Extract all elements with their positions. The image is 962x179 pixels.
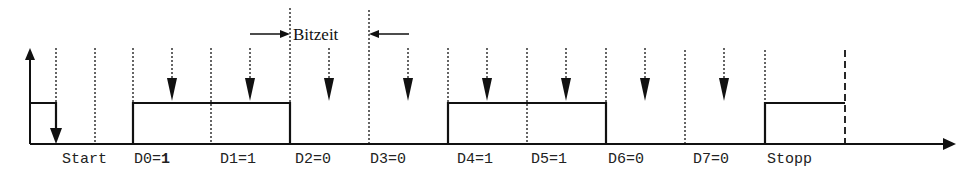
label-start: Start — [62, 151, 107, 168]
sample-arrow-icon — [482, 78, 492, 101]
time-axis-arrow-icon — [943, 138, 956, 150]
sample-arrow-icon — [719, 78, 729, 101]
sample-arrow-icon — [640, 78, 650, 101]
bit-labels: Start D0=1 D1=1 D2=0 D3=0 D4=1 D5=1 D6=0… — [62, 151, 812, 168]
label-d0: D0=1 — [134, 151, 170, 168]
label-d7: D7=0 — [693, 151, 729, 168]
sample-arrow-icon — [561, 78, 571, 101]
label-d2: D2=0 — [295, 151, 331, 168]
label-d4: D4=1 — [457, 151, 493, 168]
label-d3: D3=0 — [370, 151, 406, 168]
axes — [25, 48, 956, 150]
label-stopp: Stopp — [767, 151, 812, 168]
label-d1: D1=1 — [220, 151, 256, 168]
arrow-right-icon — [280, 30, 290, 38]
label-d6: D6=0 — [608, 151, 644, 168]
bitzeit-annotation: Bitzeit — [250, 25, 409, 44]
bitzeit-label: Bitzeit — [293, 25, 339, 44]
signal-waveform — [30, 103, 845, 144]
sample-arrow-icon — [403, 78, 413, 101]
start-edge-arrow-icon — [50, 128, 62, 144]
sample-arrow-icon — [167, 78, 177, 101]
arrow-left-icon — [369, 30, 379, 38]
level-axis-arrow-icon — [25, 48, 35, 60]
uart-timing-diagram: Bitzeit Start D0=1 D1=1 D2=0 D3=0 D4=1 D… — [0, 0, 962, 179]
label-d5: D5=1 — [531, 151, 567, 168]
sample-arrow-icon — [324, 78, 334, 101]
sample-arrow-icon — [245, 78, 255, 101]
bit-boundaries — [56, 8, 765, 144]
